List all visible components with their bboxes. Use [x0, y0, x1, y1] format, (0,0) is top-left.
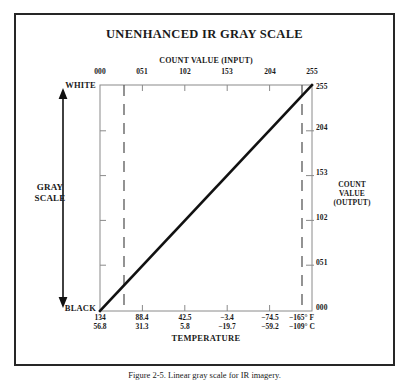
- count-output-line3: (OUTPUT): [333, 198, 370, 207]
- bottom-axis-title: TEMPERATURE: [100, 333, 312, 343]
- right-tick-label-153: 153: [316, 168, 346, 177]
- right-tick-label-000: 000: [316, 303, 346, 312]
- bottom-tick-f-1: 88.4: [122, 313, 162, 322]
- gray-scale-label-line1: GRAY: [37, 182, 63, 192]
- bottom-tick-c-2: 5.8: [165, 322, 205, 331]
- figure-container: UNENHANCED IR GRAY SCALE COUNT VALUE (IN…: [0, 0, 410, 381]
- gray-scale-axis-label: GRAY SCALE: [24, 182, 76, 203]
- count-value-output-label: COUNT VALUE (OUTPUT): [324, 180, 380, 207]
- top-tick-label-153: 153: [210, 67, 244, 76]
- top-axis-title: COUNT VALUE (INPUT): [100, 56, 312, 65]
- top-tick-label-255: 255: [295, 67, 329, 76]
- gray-scale-label-line2: SCALE: [34, 193, 65, 203]
- bottom-tick-c-1: 31.3: [122, 322, 162, 331]
- right-tick-label-255: 255: [316, 82, 346, 91]
- figure-caption: Figure 2-5. Linear gray scale for IR ima…: [14, 370, 395, 380]
- count-output-line1: COUNT: [338, 180, 366, 189]
- bottom-tick-c-0: 56.8: [80, 322, 120, 331]
- bottom-tick-f-2: 42.5: [165, 313, 205, 322]
- bottom-tick-c-3: −19.7: [207, 322, 247, 331]
- right-tick-label-102: 102: [316, 213, 346, 222]
- bottom-tick-c-4: −59.2: [250, 322, 290, 331]
- bottom-tick-f-4: −74.5: [250, 313, 290, 322]
- bottom-tick-f-0: 134: [80, 313, 120, 322]
- top-tick-label-051: 051: [125, 67, 159, 76]
- bottom-tick-c-5-unit: −109° C: [289, 322, 335, 331]
- top-tick-label-102: 102: [168, 67, 202, 76]
- black-label: BLACK: [65, 303, 96, 313]
- top-tick-label-000: 000: [83, 67, 117, 76]
- bottom-tick-f-3: −3.4: [207, 313, 247, 322]
- top-tick-label-204: 204: [253, 67, 287, 76]
- chart-title: UNENHANCED IR GRAY SCALE: [14, 27, 395, 42]
- count-output-line2: VALUE: [339, 189, 365, 198]
- right-tick-label-204: 204: [316, 123, 346, 132]
- right-tick-label-051: 051: [316, 258, 346, 267]
- white-label: WHITE: [65, 80, 96, 90]
- bottom-tick-f-5-unit: −165° F: [289, 313, 335, 322]
